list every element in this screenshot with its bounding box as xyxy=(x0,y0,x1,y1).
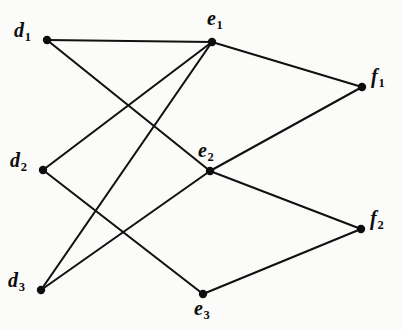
graph-node-e2[interactable] xyxy=(206,167,214,175)
node-label-subscript-e1: 1 xyxy=(217,18,223,32)
graph-node-f1[interactable] xyxy=(358,83,366,91)
graph-node-d3[interactable] xyxy=(37,286,45,294)
node-label-base-d2: d xyxy=(10,149,20,171)
node-label-subscript-d1: 1 xyxy=(25,30,31,44)
node-label-subscript-e3: 3 xyxy=(204,308,210,322)
node-label-d3: d3 xyxy=(8,270,25,290)
graph-node-e1[interactable] xyxy=(208,38,216,46)
node-label-e2: e2 xyxy=(198,140,214,160)
node-label-base-f1: f xyxy=(371,65,378,87)
node-label-subscript-e2: 2 xyxy=(208,150,214,164)
node-label-base-e3: e xyxy=(194,297,203,319)
node-label-base-f2: f xyxy=(370,207,377,229)
node-label-d1: d1 xyxy=(14,20,31,40)
graph-edge-d1-e1 xyxy=(47,40,212,42)
edge-layer xyxy=(41,40,362,294)
node-label-base-e1: e xyxy=(207,7,216,29)
graph-edge-e2-f1 xyxy=(210,87,362,171)
node-label-subscript-f2: 2 xyxy=(377,218,383,232)
node-label-subscript-d3: 3 xyxy=(19,280,25,294)
graph-figure: d1d2d3e1e2e3f1f2 xyxy=(0,0,403,330)
node-label-f2: f2 xyxy=(370,208,383,228)
node-label-base-d3: d xyxy=(8,269,18,291)
graph-edge-d3-e1 xyxy=(41,42,212,290)
graph-node-d2[interactable] xyxy=(39,166,47,174)
node-label-f1: f1 xyxy=(371,66,384,86)
graph-node-f2[interactable] xyxy=(357,225,365,233)
graph-canvas xyxy=(0,0,403,330)
node-label-subscript-f1: 1 xyxy=(378,76,384,90)
node-label-d2: d2 xyxy=(10,150,27,170)
node-label-subscript-d2: 2 xyxy=(21,160,27,174)
graph-edge-e3-f2 xyxy=(203,229,361,294)
graph-edge-e2-f2 xyxy=(210,171,361,229)
node-label-base-e2: e xyxy=(198,139,207,161)
node-label-e3: e3 xyxy=(194,298,210,318)
node-label-base-d1: d xyxy=(14,19,24,41)
graph-node-d1[interactable] xyxy=(43,36,51,44)
node-label-e1: e1 xyxy=(207,8,223,28)
graph-edge-d2-e1 xyxy=(43,42,212,170)
graph-edge-e1-f1 xyxy=(212,42,362,87)
